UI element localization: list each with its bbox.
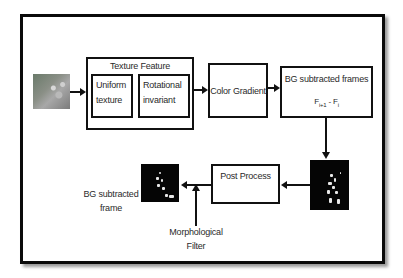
arrow-bg-to-subtracted-image xyxy=(325,118,327,153)
arrowhead-icon xyxy=(281,181,287,189)
texture-feature-title: Texture Feature xyxy=(88,61,192,72)
post-process-label: Post Process xyxy=(213,171,278,182)
arrowhead-icon xyxy=(192,184,200,191)
arrow-subtracted-to-post-process xyxy=(286,184,310,186)
arrow-morphological-filter xyxy=(195,190,197,226)
subtracted-frame-image xyxy=(310,160,349,210)
uniform-texture-line2: texture xyxy=(96,95,122,106)
arrowhead-icon xyxy=(322,152,330,159)
output-label-line2: frame xyxy=(80,203,142,214)
formula-sub2: i xyxy=(338,102,339,108)
input-traffic-image xyxy=(33,74,70,109)
rotational-invariant-box: Rotational invariant xyxy=(138,74,190,118)
uniform-texture-box: Uniform texture xyxy=(91,74,133,118)
rotational-invariant-line2: invariant xyxy=(143,95,175,106)
bg-subtracted-frames-title: BG subtracted frames xyxy=(282,74,371,85)
bg-subtracted-frames-box: BG subtracted frames Fi+1 - Fi xyxy=(280,66,373,118)
color-gradient-label: Color Gradient xyxy=(210,86,266,97)
color-gradient-box: Color Gradient xyxy=(208,63,268,118)
rotational-invariant-line1: Rotational xyxy=(143,80,182,91)
morphological-filter-line1: Morphological xyxy=(166,227,226,238)
output-label-line1: BG subtracted xyxy=(80,189,142,200)
output-frame-image xyxy=(141,164,179,202)
uniform-texture-line1: Uniform xyxy=(96,80,126,91)
arrowhead-icon xyxy=(181,181,187,189)
morphological-filter-line2: Filter xyxy=(166,241,226,252)
frame-difference-formula: Fi+1 - Fi xyxy=(282,96,371,111)
post-process-box: Post Process xyxy=(211,164,280,204)
